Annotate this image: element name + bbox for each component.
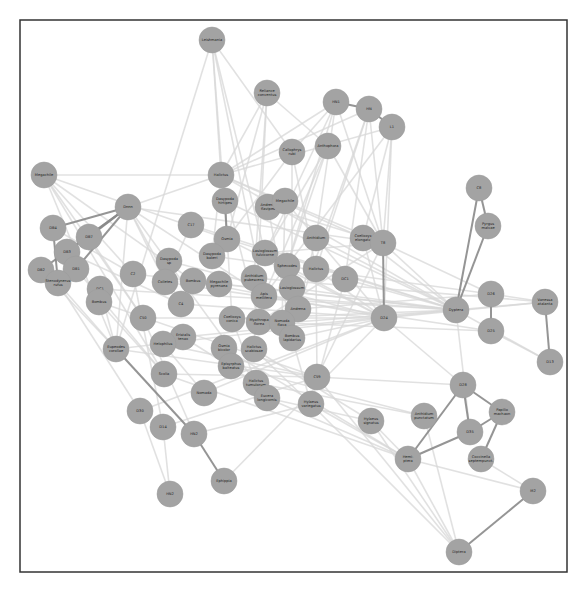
graph-node[interactable]: D26 [478,281,504,307]
node-label: conica [226,319,238,323]
graph-node[interactable]: HN [356,96,382,122]
node-label: C59 [313,375,321,379]
node-label: Dnnn [123,205,133,209]
node-label: pubescens [244,278,263,282]
node-label: sp [167,261,172,265]
graph-node[interactable]: DB4 [40,215,66,241]
graph-node[interactable]: HN2 [157,481,183,507]
graph-node[interactable]: HN1 [323,89,349,115]
graph-node[interactable]: Anthidiumpunctatum [411,403,437,429]
node-label: M2 [530,489,535,493]
node-label: balteatus [223,366,240,370]
graph-node[interactable]: Pyrgusmalvae [475,213,501,239]
graph-node[interactable]: Episyrphusbalteatus [218,353,244,379]
graph-node[interactable]: Euceralongicornis [254,385,280,411]
graph-node[interactable]: Sphecodes [274,253,300,279]
node-label: Diptera [452,550,465,554]
graph-node[interactable]: Colletes [152,269,178,295]
graph-node[interactable]: C8 [466,175,492,201]
graph-node[interactable]: Lasioglossumfulvicorne [252,240,278,266]
graph-node[interactable]: D35 [457,419,483,445]
graph-node[interactable]: Nomada [191,380,217,406]
graph-node[interactable]: Bombuslapidarius [279,325,305,351]
graph-node[interactable]: Megachile [272,188,298,214]
graph-node[interactable]: C59 [304,364,330,390]
graph-node[interactable]: Hylaeusvariegatus [298,391,324,417]
graph-node[interactable]: Myathropaflorea [246,309,272,335]
node-label: rubi [288,152,295,156]
graph-node[interactable]: D25 [478,318,504,344]
graph-node[interactable]: DB7 [76,224,102,250]
graph-node[interactable]: Dyptera [443,297,469,323]
node-label: C2 [131,272,136,276]
graph-node[interactable]: Halictusscabiosae [241,336,267,362]
graph-node[interactable]: L1 [379,114,405,140]
node-label: rufus [53,283,62,287]
graph-node[interactable]: Eupeodescorollae [103,336,129,362]
graph-node[interactable]: D14 [150,414,176,440]
graph-node[interactable]: DC1 [332,266,358,292]
graph-node[interactable]: Hemi-ptera [395,446,421,472]
graph-node[interactable]: Bombus [86,289,112,315]
node-label: DB7 [85,235,93,239]
graph-node[interactable]: HN2 [181,421,207,447]
graph-node[interactable]: Anthophora [315,133,341,159]
graph-node[interactable]: Halictus [303,256,329,282]
node-label: Scolia [159,372,170,376]
node-label: Ephippia [216,479,232,483]
graph-node[interactable]: T8 [370,230,396,256]
graph-node[interactable]: C17 [178,212,204,238]
graph-node[interactable]: Scolia [151,361,177,387]
graph-node[interactable]: C50 [130,305,156,331]
node-label: C4 [179,302,185,306]
node-label: C50 [139,316,147,320]
graph-node[interactable]: Megachilepyrenaea [206,271,232,297]
graph-node[interactable]: Halictus [208,162,234,188]
node-label: DC1 [341,277,349,281]
graph-node[interactable]: Papiliomachaon [489,399,515,425]
graph-node[interactable]: Dasypodahirtipes [212,188,238,214]
node-label: Bombus [92,300,107,304]
graph-node[interactable]: Coelioxysconica [219,306,245,332]
node-label: Anthophora [317,144,338,148]
graph-node[interactable]: Apismellifera [251,283,277,309]
node-label: Halictus [309,267,324,271]
node-label: Leishmania [202,38,222,42]
node-label: signatus [363,421,378,425]
graph-node[interactable]: D24 [371,305,397,331]
node-label: punctatum [414,416,434,420]
graph-node[interactable]: C4 [168,291,194,317]
graph-node[interactable]: Stenodynerusrufus [45,270,71,296]
graph-node[interactable]: Megachile [31,162,57,188]
graph-node[interactable]: Leishmania [199,27,225,53]
graph-node[interactable]: Coccinellaseptempunct. [468,446,494,472]
graph-node[interactable]: Relianceconventus [254,80,280,106]
graph-node[interactable]: Ephippia [211,468,237,494]
graph-node[interactable]: Helophilus [150,331,176,357]
node-label: variegatus [301,404,320,408]
graph-edge [316,269,317,377]
graph-node[interactable]: D13 [537,349,563,375]
graph-node[interactable]: Diptera [446,539,472,565]
graph-node[interactable]: Bombus [180,268,206,294]
graph-node[interactable]: Anthidium [303,225,329,251]
node-label: D35 [466,430,473,434]
graph-node[interactable]: D30 [127,398,153,424]
graph-node[interactable]: Dasypodabakeri [199,243,225,269]
node-label: Nomada [196,391,211,395]
node-label: bicolor [218,348,231,352]
graph-node[interactable]: Hylaeussignatus [358,408,384,434]
node-label: hirtipes [218,201,232,205]
node-label: florea [254,322,264,326]
node-label: Lasioglossum [280,286,305,290]
node-label: DB2 [37,268,45,272]
graph-node[interactable]: Vanessaatalanta [532,289,558,315]
graph-node[interactable]: D28 [450,372,476,398]
node-label: Bombus [186,279,201,283]
graph-node[interactable]: Callophrysrubi [279,139,305,165]
graph-node[interactable]: M2 [520,478,546,504]
node-label: HN [366,107,372,111]
graph-node[interactable]: C2 [120,261,146,287]
node-label: Colletes [158,280,173,284]
graph-node[interactable]: Dnnn [115,194,141,220]
